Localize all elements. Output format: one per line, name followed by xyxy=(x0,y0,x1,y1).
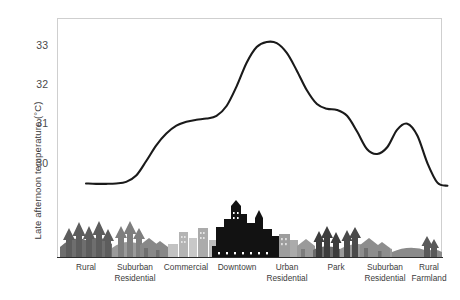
urban-residential-zone xyxy=(279,234,315,257)
temperature-profile-line xyxy=(86,42,447,186)
urban-heat-island-chart: Late afternoon temperature (°C) 33 32 31… xyxy=(0,0,460,300)
rural-farmland-zone xyxy=(392,236,442,257)
downtown-towers-zone xyxy=(212,200,279,257)
suburban-houses-2-zone xyxy=(340,227,392,257)
chart-canvas xyxy=(0,0,460,300)
land-use-silhouette xyxy=(60,200,442,257)
suburban-houses-zone xyxy=(112,221,168,257)
x-tick-label-rural-farmland: Rural Farmland xyxy=(400,262,458,283)
rural-trees-zone xyxy=(60,221,114,257)
park-trees-zone xyxy=(313,226,342,257)
commercial-blocks-zone xyxy=(168,228,216,257)
